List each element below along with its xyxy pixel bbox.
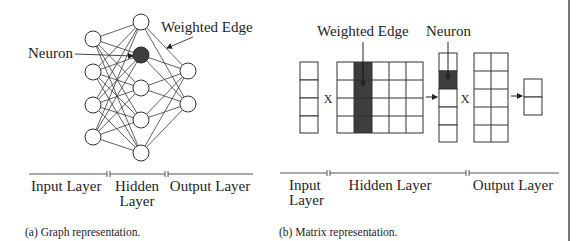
input-vector bbox=[300, 62, 318, 133]
page-margin-rule bbox=[568, 0, 570, 241]
caption-b: (b) Matrix representation. bbox=[279, 226, 398, 239]
hidden-layer-label-line2: Layer bbox=[120, 193, 155, 209]
multiply-operator-1: X bbox=[324, 92, 333, 106]
input-neuron bbox=[85, 97, 101, 113]
hidden-neuron bbox=[133, 112, 149, 128]
weighted-edge-annotation-label: Weighted Edge bbox=[161, 19, 253, 35]
figure-a-graph-representation: Neuron Weighted Edge Input Layer Hidden … bbox=[25, 14, 253, 239]
output-weight-matrix bbox=[474, 53, 508, 142]
input-neuron bbox=[85, 129, 101, 145]
neuron-annotation-label: Neuron bbox=[28, 45, 73, 61]
figure-canvas: Neuron Weighted Edge Input Layer Hidden … bbox=[0, 0, 584, 241]
output-layer-neurons bbox=[180, 63, 196, 112]
output-neuron bbox=[180, 96, 196, 112]
caption-a: (a) Graph representation. bbox=[25, 226, 140, 239]
output-neuron bbox=[180, 63, 196, 79]
output-layer-label: Output Layer bbox=[170, 178, 250, 194]
hidden-neuron bbox=[133, 14, 149, 30]
neuron-annotation-label-b: Neuron bbox=[426, 23, 471, 39]
output-layer-label: Output Layer bbox=[473, 177, 553, 193]
weighted-edge-pointer-arrow bbox=[167, 37, 193, 48]
weighted-edge-annotation-label-b: Weighted Edge bbox=[317, 23, 409, 39]
hidden-layer-label-line1: Hidden bbox=[115, 178, 160, 194]
hidden-weight-matrix bbox=[337, 62, 423, 133]
highlighted-hidden-neuron bbox=[133, 47, 149, 63]
multiply-operator-2: X bbox=[461, 92, 470, 106]
figure-b-matrix-representation: X X bbox=[279, 23, 559, 239]
layer-axis-b bbox=[280, 170, 559, 176]
neuron-pointer-arrow bbox=[75, 54, 133, 56]
input-neuron bbox=[85, 64, 101, 80]
input-layer-label: Input Layer bbox=[31, 178, 101, 194]
output-vector bbox=[524, 79, 542, 115]
layer-axis-a bbox=[29, 171, 253, 177]
input-layer-label-line2: Layer bbox=[289, 192, 324, 208]
input-layer-label-line1: Input bbox=[289, 177, 321, 193]
hidden-neuron bbox=[133, 145, 149, 161]
hidden-neuron bbox=[133, 80, 149, 96]
input-neuron bbox=[85, 31, 101, 47]
hidden-layer-label: Hidden Layer bbox=[349, 177, 432, 193]
